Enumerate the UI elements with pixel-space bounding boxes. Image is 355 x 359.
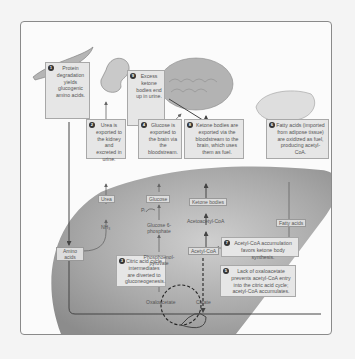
fatty-acids-box: 6 Fatty acids (imported from adipose tis… — [266, 119, 329, 159]
protein-degradation-box: 1 Protein degradation yields glucogenic … — [45, 62, 90, 119]
step-number-badge: 8 — [187, 122, 193, 128]
step-number-badge: 4 — [141, 122, 147, 128]
excess-ketone-box: 9 Excess ketone bodies end up in urine. — [127, 70, 165, 126]
adipose-icon — [256, 91, 315, 122]
step-number-badge: 5 — [223, 268, 229, 274]
amino-acids-label: Amino acids — [56, 247, 84, 261]
fatty-acids-label: Fatty acids — [276, 219, 306, 227]
citrate-label: Citrate — [196, 299, 211, 305]
lack-oxaloacetate-box: 5 Lack of oxaloacetate prevents acetyl-C… — [220, 265, 296, 297]
brain-icon — [159, 58, 233, 110]
acetoacetyl-coa-label: Acetoacetyl-CoA — [187, 218, 224, 224]
step-number-badge: 9 — [130, 73, 136, 79]
step-number-badge: 2 — [89, 122, 95, 128]
step-number-badge: 7 — [224, 240, 230, 246]
step-number-badge: 1 — [48, 65, 54, 71]
urea-export-box: 2 Urea is exported to the kidney and exc… — [86, 119, 126, 159]
glucose-label: Glucose — [146, 195, 170, 203]
oxaloacetate-label: Oxaloacetate — [146, 299, 175, 305]
step-number-badge: 6 — [269, 122, 275, 128]
urea-label: Urea — [98, 195, 115, 203]
acetyl-accumulation-box: 7 Acetyl-CoA accumulation favors ketone … — [221, 237, 299, 257]
pep-label: Phosphoenol-pyruvate — [139, 254, 179, 266]
glucose-6-phosphate-label: Glucose 6-phosphate — [141, 222, 177, 234]
acetyl-coa-label: Acetyl-CoA — [188, 247, 219, 255]
step-number-badge: 3 — [119, 258, 125, 264]
nh3-label: NH₃ — [101, 224, 110, 230]
diagram-frame: 1 Protein degradation yields glucogenic … — [20, 21, 332, 335]
ketone-bodies-label: Ketone bodies — [189, 198, 227, 206]
ketone-export-box: 8 Ketone bodies are exported via the blo… — [184, 119, 244, 159]
glucose-export-box: 4 Glucose is exported to the brain via t… — [138, 119, 182, 159]
pi-label: Pᵢ — [141, 207, 145, 213]
kidney-icon — [101, 58, 129, 92]
